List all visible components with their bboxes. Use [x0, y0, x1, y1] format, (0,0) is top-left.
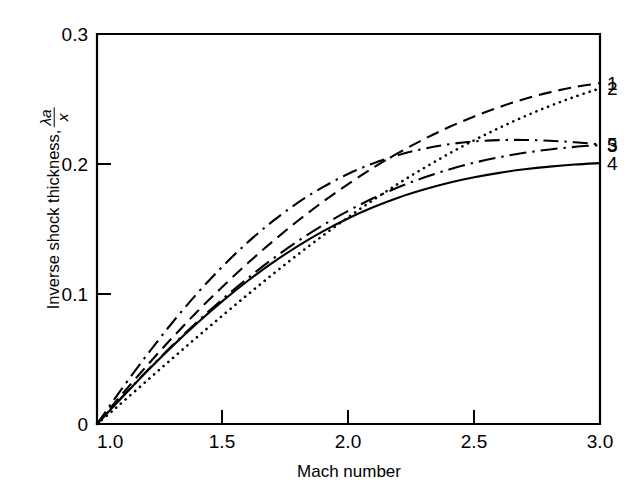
x-ticklabel-3.0: 3.0	[587, 431, 613, 452]
curve-label-4: 4	[607, 153, 618, 174]
figure-container: 0.3 0.2 0.1 0 1.0 1.5 2.0 2.5 3.0 Mach n…	[0, 0, 642, 500]
x-ticklabel-2.5: 2.5	[461, 431, 487, 452]
chart-canvas: 0.3 0.2 0.1 0 1.0 1.5 2.0 2.5 3.0 Mach n…	[0, 0, 642, 500]
x-ticklabel-1.5: 1.5	[209, 431, 235, 452]
y-axis-ticks	[97, 164, 111, 294]
data-curves	[97, 83, 600, 424]
x-axis-ticks	[222, 410, 474, 424]
curve-2	[97, 88, 600, 424]
curve-end-labels: 12534	[607, 73, 618, 174]
plot-frame	[97, 34, 600, 424]
y-ticklabel-0.2: 0.2	[62, 154, 88, 175]
x-axis-title: Mach number	[297, 462, 401, 481]
curve-label-2: 2	[607, 78, 618, 99]
y-ticklabel-0: 0	[77, 414, 88, 435]
x-ticklabel-1.0: 1.0	[97, 431, 123, 452]
y-ticklabel-0.1: 0.1	[62, 284, 88, 305]
x-ticklabel-2.0: 2.0	[335, 431, 361, 452]
y-ticklabel-0.3: 0.3	[62, 24, 88, 45]
curve-4	[97, 163, 600, 424]
curve-3	[97, 145, 600, 424]
curve-1	[97, 83, 600, 424]
